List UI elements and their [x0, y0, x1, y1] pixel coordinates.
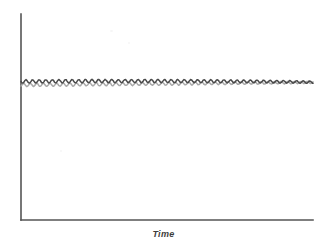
- chart-figure: Time: [0, 0, 327, 247]
- plot-area: [0, 0, 327, 247]
- x-axis-label: Time: [0, 228, 327, 240]
